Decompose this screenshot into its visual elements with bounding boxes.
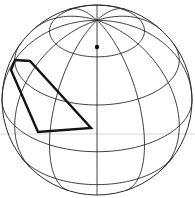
longitude-line	[97, 16, 162, 30]
longitude-line	[97, 20, 179, 167]
globe-diagram	[0, 0, 195, 198]
longitude-line	[50, 20, 98, 190]
longitude-line	[97, 9, 125, 21]
longitude-line	[15, 20, 97, 167]
north-pole-marker	[95, 45, 99, 49]
longitude-line	[32, 16, 97, 30]
longitude-line	[69, 9, 97, 21]
globe-svg	[0, 0, 195, 198]
longitude-line	[97, 20, 145, 190]
